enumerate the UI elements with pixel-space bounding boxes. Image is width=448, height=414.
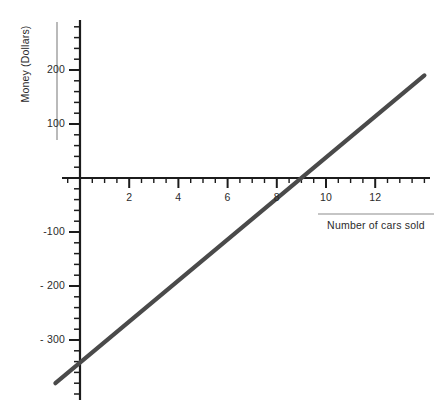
y-tick-label: 200 (47, 63, 65, 75)
y-tick-label: - 300 (40, 333, 65, 345)
axes-group (62, 20, 430, 400)
x-tick-label: 10 (311, 191, 341, 203)
x-tick-label: 12 (360, 191, 390, 203)
y-tick-label: 100 (47, 117, 65, 129)
tick-marks-group (68, 27, 425, 394)
x-axis-title: Number of cars sold (310, 219, 442, 231)
x-tick-label: 6 (213, 191, 243, 203)
line-chart: 200100-100- 200- 300 24681012 Money (Dol… (0, 0, 448, 414)
axis-title-rules (57, 22, 434, 214)
y-tick-label: -100 (43, 225, 65, 237)
y-axis-title: Money (Dollars) (19, 3, 31, 125)
y-tick-label: - 200 (40, 279, 65, 291)
plot-area (0, 0, 448, 414)
x-tick-label: 4 (163, 191, 193, 203)
x-tick-label: 8 (262, 191, 292, 203)
x-tick-label: 2 (114, 191, 144, 203)
